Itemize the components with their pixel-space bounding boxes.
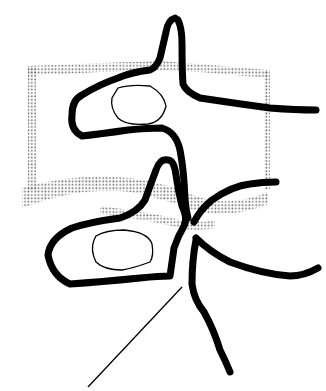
vertebrae-diagram [0,0,326,391]
pointer-line [88,287,182,387]
upper-pedicle-oval [112,85,166,124]
lower-pedicle-oval [92,230,152,270]
